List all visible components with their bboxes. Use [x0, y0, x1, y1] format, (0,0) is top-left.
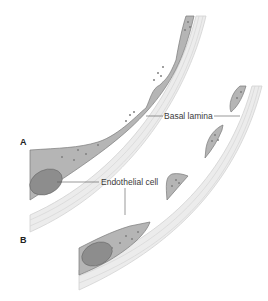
panel-b-label: B: [20, 236, 27, 245]
basal-lamina-label: Basal lamina: [164, 112, 213, 121]
capillary-endothelium-diagram: [0, 0, 268, 301]
panel-a-label: A: [20, 138, 27, 147]
endothelial-cell-label: Endothelial cell: [101, 178, 158, 187]
